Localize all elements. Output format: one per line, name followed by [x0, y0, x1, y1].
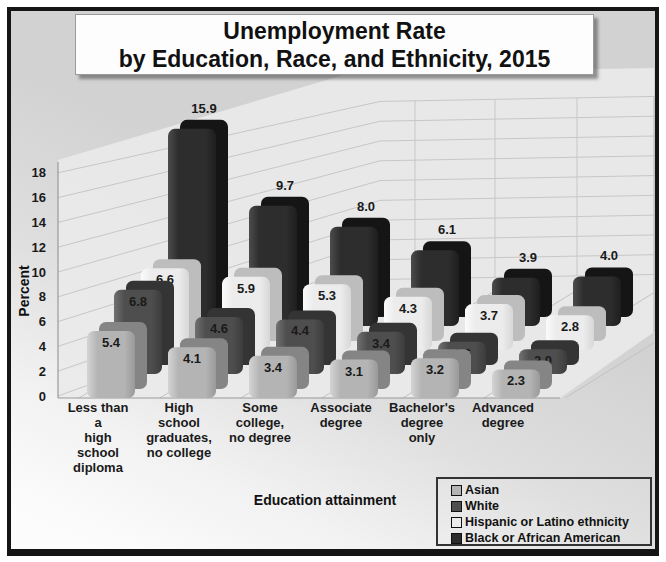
legend-item-white: White [451, 498, 650, 514]
chart-page: 02468101214161815.99.78.06.13.94.06.65.9… [0, 0, 666, 562]
chart-title-line1: Unemployment Rate [223, 17, 445, 45]
legend-label-asian: Asian [465, 483, 499, 497]
legend-item-black: Black or African American [451, 530, 650, 546]
legend-item-asian: Asian [451, 482, 650, 498]
slide-canvas [7, 7, 659, 556]
legend-swatch-white [451, 501, 462, 512]
legend-label-white: White [465, 499, 499, 513]
legend-box: Asian White Hispanic or Latino ethnicity… [436, 477, 652, 546]
x-axis-title: Education attainment [175, 492, 475, 508]
legend-swatch-hispanic [451, 517, 462, 528]
legend-swatch-asian [451, 485, 462, 496]
chart-title-line2: by Education, Race, and Ethnicity, 2015 [119, 45, 551, 73]
legend-swatch-black [451, 533, 462, 544]
y-axis-title: Percent [16, 251, 32, 331]
legend-label-hispanic: Hispanic or Latino ethnicity [465, 515, 629, 529]
legend-label-black: Black or African American [465, 531, 620, 545]
legend-item-hispanic: Hispanic or Latino ethnicity [451, 514, 650, 530]
chart-title-box: Unemployment Rate by Education, Race, an… [75, 14, 594, 75]
